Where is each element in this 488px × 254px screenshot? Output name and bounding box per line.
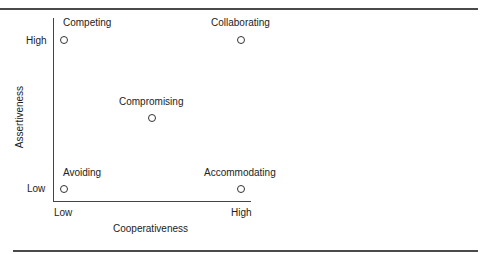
point-marker-accommodating — [237, 185, 245, 193]
x-axis-low-label: Low — [54, 207, 72, 219]
point-marker-avoiding — [60, 185, 68, 193]
top-rule — [0, 8, 478, 10]
point-label-avoiding: Avoiding — [63, 167, 101, 179]
y-axis-title: Assertiveness — [14, 86, 26, 148]
x-axis-high-label: High — [231, 207, 252, 219]
point-label-collaborating: Collaborating — [211, 17, 270, 29]
bottom-rule — [13, 250, 478, 252]
point-marker-collaborating — [237, 36, 245, 44]
y-axis-line — [53, 18, 54, 202]
point-marker-compromising — [148, 114, 156, 122]
x-axis-title: Cooperativeness — [113, 223, 188, 235]
y-axis-low-label: Low — [27, 183, 45, 195]
point-label-accommodating: Accommodating — [204, 167, 276, 179]
y-axis-high-label: High — [26, 35, 47, 47]
point-label-competing: Competing — [63, 17, 111, 29]
x-axis-line — [53, 201, 251, 202]
point-label-compromising: Compromising — [119, 96, 183, 108]
point-marker-competing — [60, 36, 68, 44]
